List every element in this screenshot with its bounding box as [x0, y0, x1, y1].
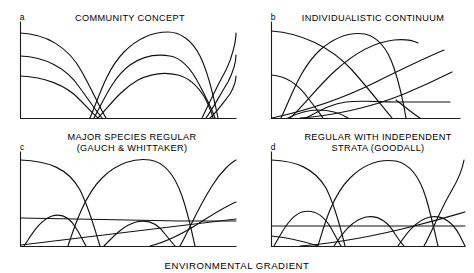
panel-c-curve-major-2 [68, 160, 195, 246]
panel-d-title-line1: REGULAR WITH INDEPENDENT [304, 132, 451, 142]
panel-c: c MAJOR SPECIES REGULAR (GAUCH & WHITTAK… [20, 132, 236, 247]
panel-d-title-line2: STRATA (GOODALL) [331, 143, 424, 153]
panel-d-curve-upper-2 [318, 161, 438, 246]
panel-d: d REGULAR WITH INDEPENDENT STRATA (GOODA… [271, 132, 465, 247]
panel-b-curve-6 [300, 72, 452, 118]
panel-a: a COMMUNITY CONCEPT [20, 12, 236, 119]
species-gradient-figure: a COMMUNITY CONCEPT b INDIVIDUALISTIC CO… [0, 0, 474, 273]
panel-c-curve-minor-5 [21, 219, 236, 245]
panel-c-title-line2: (GAUCH & WHITTAKER) [77, 143, 188, 153]
panel-d-letter: d [271, 142, 276, 152]
panel-b-letter: b [271, 12, 276, 22]
panel-b-title: INDIVIDUALISTIC CONTINUUM [302, 13, 445, 23]
panel-a-curve-1 [21, 33, 107, 118]
panel-c-letter: c [20, 142, 25, 152]
panel-c-curve-major-3 [180, 160, 236, 246]
panel-b-curve-5 [272, 50, 444, 118]
panel-d-curve-lower-1 [274, 211, 341, 246]
panel-b: b INDIVIDUALISTIC CONTINUUM [271, 12, 460, 119]
panel-a-axes [21, 22, 237, 119]
panel-a-title: COMMUNITY CONCEPT [75, 13, 185, 23]
x-axis-caption: ENVIRONMENTAL GRADIENT [165, 260, 310, 271]
panel-c-title-line1: MAJOR SPECIES REGULAR [68, 132, 197, 142]
figure-root: a COMMUNITY CONCEPT b INDIVIDUALISTIC CO… [0, 0, 474, 273]
panel-b-curve-9 [396, 100, 420, 118]
panel-a-letter: a [20, 12, 25, 22]
panel-b-curve-3 [281, 34, 406, 118]
panel-b-curve-4 [290, 40, 418, 118]
